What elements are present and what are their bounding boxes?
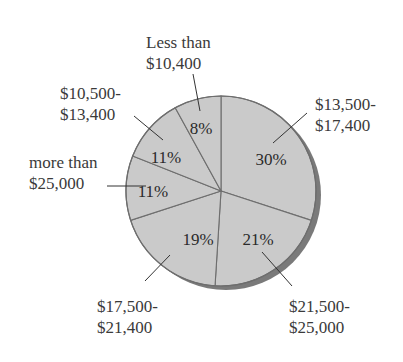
percent-label: 21% (242, 230, 273, 249)
category-label: $21,500-$25,000 (289, 297, 350, 337)
category-label: $10,500-$13,400 (60, 84, 121, 124)
percent-label: 19% (182, 230, 213, 249)
percent-label: 11% (138, 182, 169, 201)
percent-label: 11% (151, 148, 182, 167)
income-pie-chart: 30%21%19%11%11%8% $13,500-$17,400$21,500… (0, 0, 403, 362)
category-label: Less than$10,400 (146, 33, 211, 73)
percent-label: 8% (190, 119, 213, 138)
category-label: more than$25,000 (29, 153, 98, 193)
percent-label: 30% (255, 150, 286, 169)
category-label: $17,500-$21,400 (97, 297, 158, 337)
category-label: $13,500-$17,400 (315, 95, 376, 135)
